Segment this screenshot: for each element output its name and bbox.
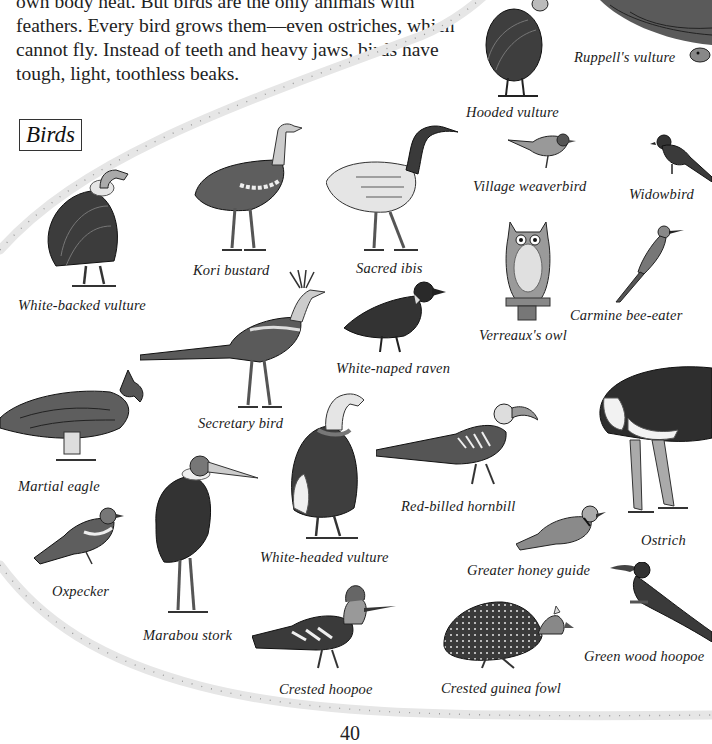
label-crested-hoopoe: Crested hoopoe — [279, 681, 373, 698]
label-white-naped-raven: White-naped raven — [336, 360, 450, 377]
label-oxpecker: Oxpecker — [52, 583, 109, 600]
label-sacred-ibis: Sacred ibis — [356, 260, 423, 277]
village-weaverbird-illustration — [508, 132, 578, 172]
ostrich-illustration — [598, 358, 712, 520]
green-wood-hoopoe-illustration — [610, 562, 712, 642]
crested-guinea-fowl-illustration — [442, 596, 578, 670]
label-ostrich: Ostrich — [641, 532, 686, 549]
oxpecker-illustration — [34, 502, 124, 568]
red-billed-hornbill-illustration — [376, 392, 538, 488]
verreauxs-owl-illustration — [504, 218, 552, 322]
secretary-bird-illustration — [140, 270, 325, 410]
sacred-ibis-illustration — [326, 122, 458, 254]
label-widowbird: Widowbird — [629, 186, 694, 203]
label-carmine-bee-eater: Carmine bee-eater — [570, 307, 683, 324]
label-village-weaverbird: Village weaverbird — [473, 178, 587, 195]
label-green-wood-hoopoe: Green wood hoopoe — [584, 648, 704, 665]
label-marabou-stork: Marabou stork — [143, 627, 232, 644]
section-heading-box: Birds — [19, 119, 82, 151]
white-backed-vulture-illustration — [36, 166, 132, 288]
label-ruppells-vulture: Ruppell's vulture — [574, 49, 675, 66]
label-red-billed-hornbill: Red-billed hornbill — [401, 498, 516, 515]
carmine-bee-eater-illustration — [612, 224, 684, 304]
white-headed-vulture-illustration — [288, 390, 366, 542]
widowbird-illustration — [650, 132, 712, 182]
label-white-headed-vulture: White-headed vulture — [260, 549, 389, 566]
white-naped-raven-illustration — [344, 278, 446, 356]
martial-eagle-illustration — [0, 368, 146, 472]
hooded-vulture-illustration — [478, 0, 558, 100]
crested-hoopoe-illustration — [252, 584, 396, 674]
greater-honey-guide-illustration — [516, 504, 606, 552]
section-heading: Birds — [26, 122, 75, 148]
label-martial-eagle: Martial eagle — [18, 478, 100, 495]
label-white-backed-vulture: White-backed vulture — [18, 297, 146, 314]
label-hooded-vulture: Hooded vulture — [466, 104, 559, 121]
label-secretary-bird: Secretary bird — [198, 415, 283, 432]
label-greater-honey-guide: Greater honey guide — [467, 562, 590, 579]
kori-bustard-illustration — [190, 120, 302, 255]
page-number: 40 — [340, 722, 360, 744]
label-crested-guinea-fowl: Crested guinea fowl — [441, 680, 561, 697]
label-verreauxs-owl: Verreaux's owl — [479, 327, 567, 344]
marabou-stork-illustration — [150, 454, 258, 614]
